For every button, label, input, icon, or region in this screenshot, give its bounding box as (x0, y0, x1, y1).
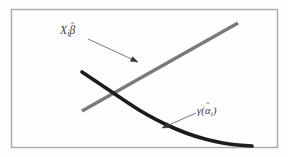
label-gamma-inner-group: ˆα (205, 106, 211, 117)
figure-canvas (0, 0, 288, 157)
figure-container: Xiˆβ γ(ˆαi) (0, 0, 288, 157)
label-gamma-function: γ(ˆαi) (197, 106, 217, 118)
hat-accent-beta: ˆ (71, 22, 74, 31)
label-gamma-close-paren: ) (213, 105, 217, 116)
label-linear-index: Xiˆβ (60, 25, 76, 38)
figure-background (0, 0, 288, 157)
hat-accent-alpha: ˆ (206, 103, 209, 111)
label-linear-symbol-group: ˆβ (70, 25, 76, 37)
